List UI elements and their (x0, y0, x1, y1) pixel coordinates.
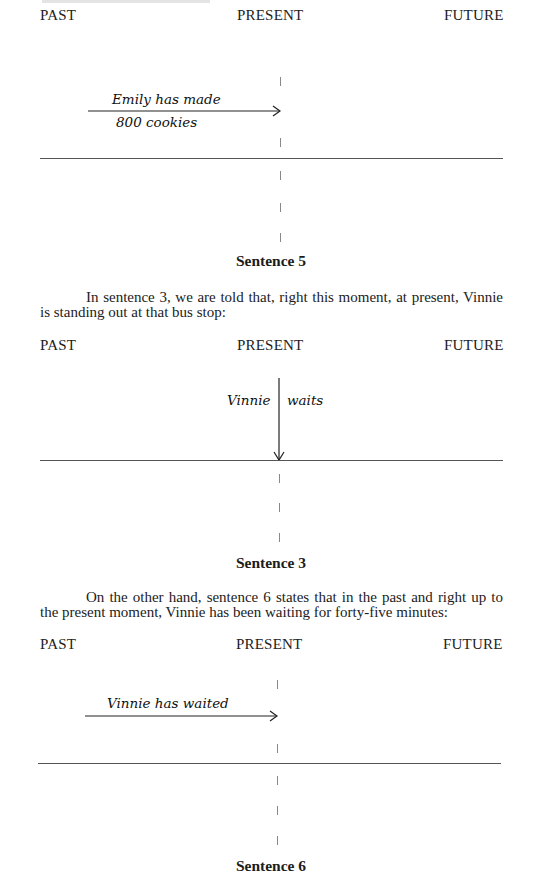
present-tick (277, 836, 278, 845)
diagram-caption: Sentence 6 (0, 857, 542, 875)
handwritten-note: Vinnie has waited (107, 695, 229, 711)
timeline-axis (38, 763, 501, 764)
arrow-right-icon (0, 0, 542, 895)
present-tick (277, 744, 278, 753)
present-tick (277, 806, 278, 815)
present-tick (277, 776, 278, 785)
